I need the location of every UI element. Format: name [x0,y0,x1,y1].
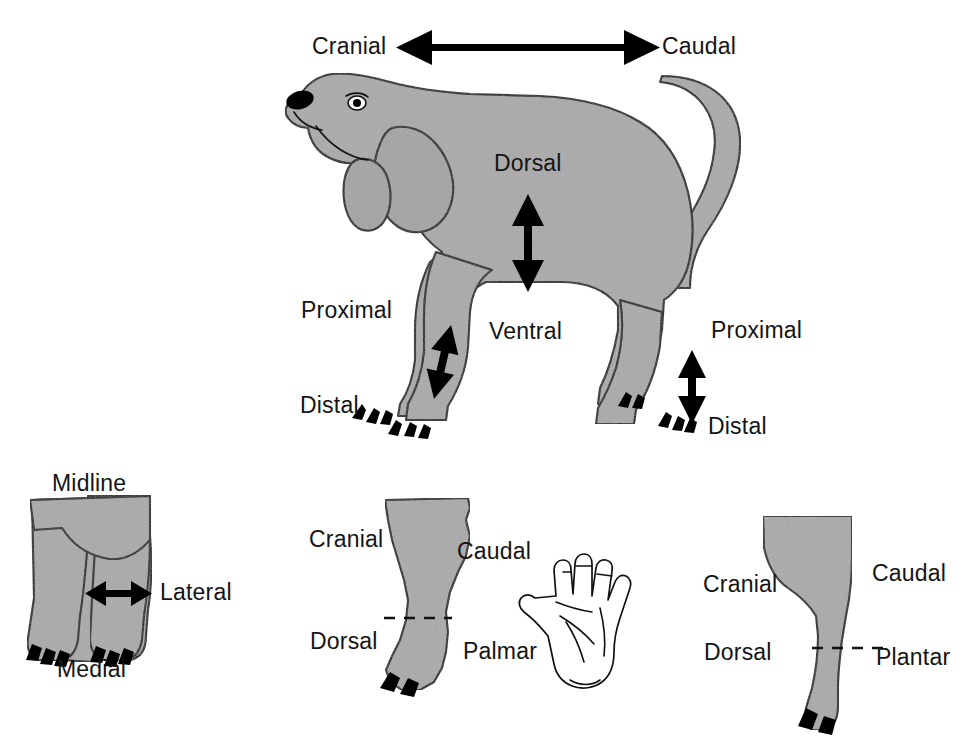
hindlimb-figure [763,516,852,730]
diagram-vector-layer [0,0,979,747]
human-hand-icon [519,554,630,688]
forelimb-figure [385,498,470,690]
cranial-caudal-arrow-icon [396,30,660,65]
label-distal-forelimb: Distal [300,394,359,417]
label-palmar-forelimb: Palmar [463,640,537,663]
label-cranial-forelimb: Cranial [309,528,383,551]
label-distal-hindlimb: Distal [708,415,767,438]
dog-figure [286,73,741,424]
label-dorsal-hindlimb: Dorsal [704,641,772,664]
label-plantar-hindlimb: Plantar [876,646,950,669]
label-caudal-top: Caudal [662,35,736,58]
label-dorsal-dog: Dorsal [494,152,562,175]
label-medial: Medial [57,658,126,681]
label-caudal-hindlimb: Caudal [872,562,946,585]
label-dorsal-forelimb: Dorsal [310,630,378,653]
label-proximal-forelimb: Proximal [301,299,392,322]
label-midline: Midline [52,472,126,495]
label-caudal-forelimb: Caudal [457,540,531,563]
label-proximal-hindlimb: Proximal [711,319,802,342]
hindlimb-proximal-distal-arrow-icon [678,350,706,424]
label-cranial-hindlimb: Cranial [703,573,777,596]
diagram-canvas: Cranial Caudal Dorsal Ventral Proximal D… [0,0,979,747]
label-lateral: Lateral [160,581,232,604]
label-ventral-dog: Ventral [489,320,562,343]
label-cranial-top: Cranial [312,35,386,58]
